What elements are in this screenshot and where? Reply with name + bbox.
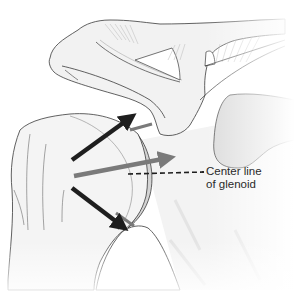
center-line-label-2: of glenoid [206,178,256,191]
center-line-label: Center line [206,165,262,178]
shoulder-diagram [0,0,294,301]
